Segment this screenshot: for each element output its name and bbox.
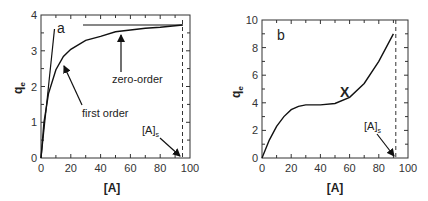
x-tick-label: 0 [259,162,265,174]
panel-label-b: b [277,27,285,43]
x-marker-label: X [340,84,350,100]
figure: 0 20 40 60 80 100 0 1 2 3 4 [A] qe a [0,0,428,201]
x-tick-label: 0 [38,162,44,174]
chart-panel-b: 0 20 40 60 80 100 0 2 4 6 8 10 [A] qe b … [229,14,417,195]
saturation-label-main: [A] [142,124,155,136]
x-axis-ticks-b [277,20,394,158]
y-axis-ticks-a [41,33,190,140]
x-tick-labels-a: 0 20 40 60 80 100 [38,162,199,174]
y-tick-label: 2 [252,124,258,136]
saturation-arrow-a [160,138,180,156]
y-tick-label: 2 [31,81,37,93]
saturation-label-sub: s [155,131,159,138]
y-tick-label: 3 [31,45,37,57]
x-tick-label: 80 [373,162,385,174]
y-axis-title-a: qe [11,82,27,94]
saturation-arrow-b [377,134,394,156]
x-tick-label: 40 [94,162,106,174]
y-tick-label: 4 [252,97,258,109]
x-tick-label: 40 [314,162,326,174]
saturation-label-a: [A]s [142,124,159,138]
x-axis-title-a: [A] [104,181,121,195]
y-axis-title-b: qe [229,86,245,98]
y-tick-label: 0 [252,152,258,164]
x-tick-label: 60 [124,162,136,174]
first-order-label: first order [82,107,129,119]
isotherm-curve-a [41,25,183,158]
y-tick-labels-b: 0 2 4 6 8 10 [246,14,258,164]
x-tick-label: 20 [65,162,77,174]
y-tick-label: 10 [246,14,258,26]
svg-text:qe: qe [229,86,245,98]
x-tick-label: 100 [399,162,417,174]
y-tick-labels-a: 0 1 2 3 4 [31,9,37,164]
y-tick-label: 8 [252,42,258,54]
isotherm-curve-b [262,34,393,158]
y-axis-title-main: q [11,87,25,94]
saturation-label-main: [A] [364,120,377,132]
y-tick-label: 0 [31,152,37,164]
y-axis-title-sub: e [18,82,27,87]
zero-order-label: zero-order [112,73,163,85]
y-tick-label: 4 [31,9,37,21]
x-tick-label: 100 [181,162,199,174]
x-tick-labels-b: 0 20 40 60 80 100 [259,162,417,174]
saturation-label-b: [A]s [364,120,381,134]
svg-text:qe: qe [11,82,27,94]
panel-label-a: a [57,20,65,36]
chart-panel-a: 0 20 40 60 80 100 0 1 2 3 4 [A] qe a [11,9,199,195]
y-axis-title-sub: e [236,86,245,91]
y-tick-label: 6 [252,69,258,81]
x-axis-title-b: [A] [327,181,344,195]
x-tick-label: 60 [343,162,355,174]
x-tick-label: 20 [285,162,297,174]
y-axis-ticks-b [262,34,408,144]
saturation-label-sub: s [377,127,381,134]
plot-frame-a [41,15,190,158]
y-tick-label: 1 [31,116,37,128]
y-axis-title-main: q [229,91,243,98]
x-tick-label: 80 [154,162,166,174]
first-order-arrow [64,66,82,105]
